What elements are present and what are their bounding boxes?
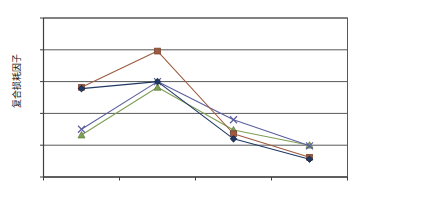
series-line (82, 87, 310, 145)
data-point-marker (230, 116, 237, 123)
series-group (78, 78, 313, 162)
data-point-marker (155, 48, 161, 54)
chart-legend (348, 0, 432, 221)
series-line (82, 51, 310, 157)
series-group (78, 84, 313, 148)
series-line (82, 82, 310, 160)
plot-border (44, 18, 348, 177)
chart-container: 复合损耗因子 (0, 0, 432, 221)
series-group (79, 48, 313, 160)
